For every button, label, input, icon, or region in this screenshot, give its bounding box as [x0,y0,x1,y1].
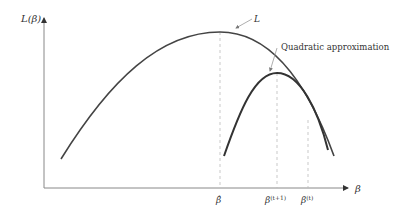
x-axis-label: β [354,183,361,194]
curve-label: L [253,14,260,24]
tick-beta-t-sup: (t) [306,194,313,201]
y-axis-label: L(β) [20,13,41,24]
tick-beta-hat: β̂ [215,195,221,205]
tick-beta-t: β(t) [300,194,313,205]
approx-label: Quadratic approximation [281,42,390,52]
quadratic-approx-curve [224,73,328,156]
diagram-canvas: L(β) β L Quadratic approximation β̂ β(t+… [0,0,398,215]
curve-label-pointer [236,19,252,28]
tick-beta-t1: β(t+1) [264,194,286,205]
tick-beta-t1-sup: (t+1) [270,194,286,201]
